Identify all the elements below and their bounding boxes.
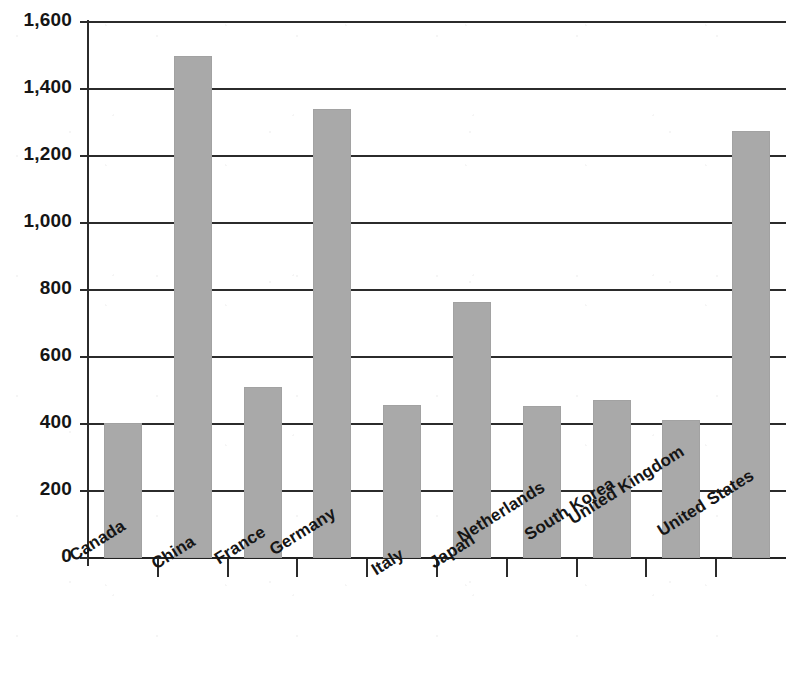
y-tick-label: 1,200 bbox=[23, 143, 72, 165]
y-tick-label: 600 bbox=[40, 344, 72, 366]
bar bbox=[313, 109, 351, 558]
bar bbox=[383, 405, 421, 558]
y-tick-label-wrap: 1,200 bbox=[0, 143, 72, 163]
bar-chart-figure: 02004006008001,0001,2001,4001,600 Canada… bbox=[0, 0, 804, 698]
bar bbox=[174, 56, 212, 559]
y-tick-label-wrap: 0 bbox=[0, 545, 72, 565]
y-tick-label: 800 bbox=[40, 277, 72, 299]
y-tick-label: 1,400 bbox=[23, 76, 72, 98]
y-tick-label: 1,000 bbox=[23, 210, 72, 232]
x-tick-mark bbox=[506, 559, 508, 577]
x-tick-mark bbox=[576, 559, 578, 577]
y-tick-label: 200 bbox=[40, 478, 72, 500]
y-tick-label-wrap: 1,000 bbox=[0, 210, 72, 230]
x-tick-mark bbox=[296, 559, 298, 577]
bar-series bbox=[88, 22, 786, 558]
y-tick-label-wrap: 800 bbox=[0, 277, 72, 297]
y-tick-label-wrap: 1,400 bbox=[0, 76, 72, 96]
x-tick-mark bbox=[715, 559, 717, 577]
y-tick-label-wrap: 200 bbox=[0, 478, 72, 498]
y-tick-label-wrap: 600 bbox=[0, 344, 72, 364]
y-tick-label: 400 bbox=[40, 411, 72, 433]
y-tick-label-wrap: 1,600 bbox=[0, 9, 72, 29]
x-tick-mark bbox=[645, 559, 647, 577]
y-tick-label: 1,600 bbox=[23, 9, 72, 31]
y-tick-label-wrap: 400 bbox=[0, 411, 72, 431]
